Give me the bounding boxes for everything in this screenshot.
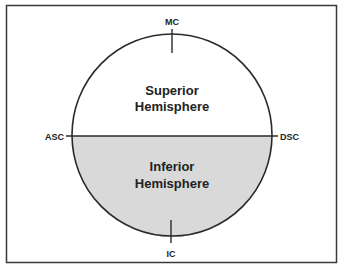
mc-label: MC	[165, 17, 179, 27]
inferior-label-line2: Hemisphere	[135, 176, 209, 191]
asc-label: ASC	[45, 132, 65, 142]
superior-label-line2: Hemisphere	[135, 99, 209, 114]
hemisphere-diagram: MC IC ASC DSC Superior Hemisphere Inferi…	[0, 0, 345, 276]
inferior-label-line1: Inferior	[150, 159, 195, 174]
superior-label-line1: Superior	[145, 83, 198, 98]
dsc-label: DSC	[280, 132, 300, 142]
ic-label: IC	[167, 249, 177, 259]
